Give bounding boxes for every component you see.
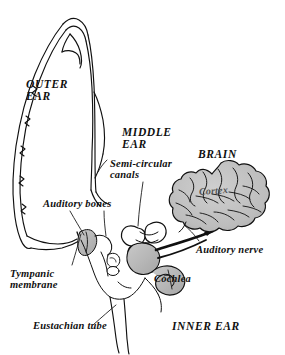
label-semicircular-canals: Semi-circular canals — [110, 158, 172, 181]
label-tympanic-membrane: Tympanic membrane — [10, 268, 58, 291]
label-auditory-nerve: Auditory nerve — [196, 244, 263, 255]
label-inner-ear: INNER EAR — [172, 320, 240, 332]
label-cochlea: Cochlea — [154, 273, 191, 284]
ear-anatomy-figure: OUTER EAR MIDDLE EAR Semi-circular canal… — [0, 0, 285, 355]
label-auditory-bones: Auditory bones — [43, 198, 111, 209]
label-outer-ear: OUTER EAR — [26, 78, 68, 103]
eustachian-tube — [110, 297, 129, 354]
label-brain: BRAIN — [198, 148, 237, 160]
pinna-outline — [13, 19, 108, 249]
ear-canal — [27, 236, 81, 250]
label-eustachian-tube: Eustachian tube — [33, 320, 107, 331]
label-cortex: Cortex — [199, 185, 229, 198]
label-middle-ear: MIDDLE EAR — [122, 126, 172, 151]
